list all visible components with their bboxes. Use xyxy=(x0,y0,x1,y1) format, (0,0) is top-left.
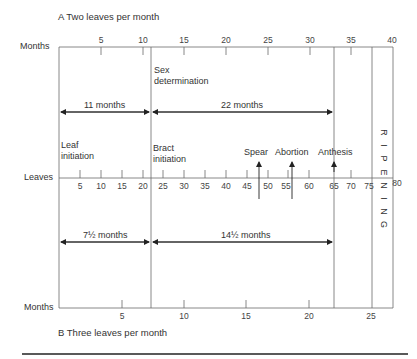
leaves-tick: 45 xyxy=(242,181,251,191)
sex-determination-label-1: Sex xyxy=(154,65,170,75)
top-tick: 20 xyxy=(221,35,230,45)
leaf-initiation-label-2: initiation xyxy=(61,151,94,161)
ripening-letter: N xyxy=(376,207,389,217)
top-tick: 40 xyxy=(387,35,396,45)
bottom-tick: 5 xyxy=(120,311,125,321)
ripening-letter: G xyxy=(376,220,389,230)
top-months-label: Months xyxy=(20,41,50,51)
leaves-label: Leaves xyxy=(24,172,53,182)
top-tick: 30 xyxy=(305,35,314,45)
leaves-tick: 55 xyxy=(281,181,290,191)
ripening-letter: E xyxy=(376,167,389,177)
sex-determination-label-2: determination xyxy=(154,76,209,86)
bottom-tick: 15 xyxy=(241,311,250,321)
interval-b-first: 7½ months xyxy=(83,230,128,240)
anthesis-label: Anthesis xyxy=(318,147,353,157)
ripening-letter: I xyxy=(376,194,389,204)
bottom-tick: 20 xyxy=(304,311,313,321)
bract-initiation-label-1: Bract xyxy=(153,143,174,153)
top-tick: 5 xyxy=(99,35,104,45)
timeline-lines xyxy=(0,0,417,359)
bract-initiation-label-2: initiation xyxy=(153,154,186,164)
leaves-tick: 5 xyxy=(78,181,83,191)
top-tick: 10 xyxy=(138,35,147,45)
leaves-tick: 15 xyxy=(117,181,126,191)
interval-b-second: 14½ months xyxy=(221,230,271,240)
ripening-letter: N xyxy=(376,180,389,190)
interval-a-second: 22 months xyxy=(221,100,263,110)
top-tick: 15 xyxy=(179,35,188,45)
ripening-label: R I P E N I N G xyxy=(378,126,388,232)
leaves-tick: 10 xyxy=(96,181,105,191)
leaves-tick: 35 xyxy=(200,181,209,191)
interval-a-first: 11 months xyxy=(84,100,125,110)
leaves-tick: 20 xyxy=(138,181,147,191)
leaf-initiation-label-1: Leaf xyxy=(61,140,79,150)
leaves-tick: 75 xyxy=(364,181,373,191)
bottom-tick: 10 xyxy=(179,311,188,321)
ripening-letter: R xyxy=(376,128,389,138)
leaves-tick: 30 xyxy=(179,181,188,191)
ripening-letter: P xyxy=(376,154,389,164)
leaves-tick: 40 xyxy=(221,181,230,191)
ripening-letter: I xyxy=(376,141,389,151)
bottom-tick: 25 xyxy=(366,311,375,321)
spear-label: Spear xyxy=(244,147,268,157)
bottom-months-label: Months xyxy=(24,302,54,312)
leaves-tick: 80 xyxy=(392,178,401,188)
top-tick: 25 xyxy=(263,35,272,45)
abortion-label: Abortion xyxy=(275,147,309,157)
leaves-tick: 65 xyxy=(329,181,338,191)
leaves-tick: 70 xyxy=(346,181,355,191)
top-tick: 35 xyxy=(346,35,355,45)
leaves-tick: 25 xyxy=(158,181,167,191)
leaves-tick: 60 xyxy=(304,181,313,191)
leaves-tick: 50 xyxy=(263,181,272,191)
